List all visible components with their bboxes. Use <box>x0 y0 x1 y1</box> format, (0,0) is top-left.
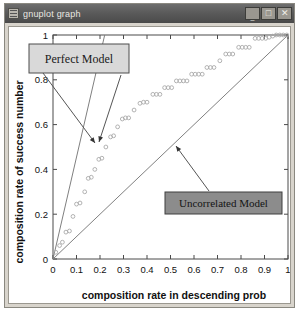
window-title: gnuplot graph <box>23 9 244 19</box>
annotation-arrowhead <box>98 136 103 142</box>
y-tick-label: 0.2 <box>35 209 48 220</box>
y-tick-label: 1 <box>43 30 48 41</box>
gnuplot-window: gnuplot graph _ □ ✕ 00.10.20.30.40.50.60… <box>4 3 295 308</box>
x-tick-label: 1 <box>285 264 290 275</box>
data-point <box>104 145 108 149</box>
data-point <box>58 244 62 248</box>
x-tick-label: 0.7 <box>211 264 224 275</box>
y-tick-label: 0.4 <box>35 164 48 175</box>
data-point <box>78 201 82 205</box>
x-tick-label: 0.3 <box>117 264 130 275</box>
perfect-model-label-text: Perfect Model <box>45 52 114 66</box>
y-tick-label: 0.8 <box>35 74 48 85</box>
uncorrelated-model-label: Uncorrelated Model <box>165 146 282 214</box>
annotation-arrowhead <box>176 146 181 152</box>
maximize-icon: □ <box>262 8 275 19</box>
gnuplot-chart: 00.10.20.30.40.50.60.70.80.9100.20.40.60… <box>9 27 291 304</box>
plot-client-area: 00.10.20.30.40.50.60.70.80.9100.20.40.60… <box>8 26 291 304</box>
x-tick-label: 0.8 <box>234 264 247 275</box>
y-axis-label: composition rate of success number <box>13 80 25 263</box>
data-point <box>61 240 65 244</box>
x-tick-label: 0 <box>50 264 55 275</box>
x-tick-label: 0.1 <box>70 264 83 275</box>
gnuplot-app-icon <box>8 8 19 19</box>
data-point <box>93 168 97 172</box>
close-button[interactable]: ✕ <box>277 7 292 20</box>
data-point <box>218 59 222 63</box>
data-point <box>68 229 72 233</box>
y-tick-label: 0.6 <box>35 119 48 130</box>
x-tick-label: 0.9 <box>258 264 271 275</box>
x-tick-label: 0.4 <box>140 264 153 275</box>
uncorrelated-model-label-text: Uncorrelated Model <box>179 197 268 209</box>
x-axis-label: composition rate in descending prob <box>82 289 266 301</box>
x-tick-label: 0.5 <box>164 264 177 275</box>
window-titlebar[interactable]: gnuplot graph _ □ ✕ <box>5 4 294 23</box>
maximize-button[interactable]: □ <box>261 7 276 20</box>
data-point <box>71 215 75 219</box>
minimize-icon: _ <box>246 11 259 22</box>
minimize-button[interactable]: _ <box>245 7 260 20</box>
annotation-arrow <box>176 146 209 191</box>
x-tick-label: 0.6 <box>187 264 200 275</box>
x-tick-label: 0.2 <box>93 264 106 275</box>
data-point <box>116 125 120 129</box>
annotation-arrowhead <box>90 137 95 143</box>
annotations-layer: Perfect ModelUncorrelated Model <box>29 44 282 214</box>
annotation-arrow <box>43 73 95 143</box>
annotation-arrow <box>99 75 121 142</box>
y-tick-label: 0 <box>43 254 48 265</box>
data-point <box>83 190 87 194</box>
close-icon: ✕ <box>278 8 291 19</box>
data-point <box>132 108 136 112</box>
